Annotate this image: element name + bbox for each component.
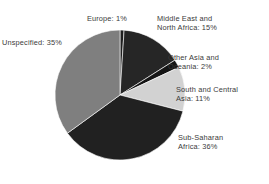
pie-label-other-asia-and-oceania: Other Asia and Oceania: 2% — [168, 53, 268, 71]
pie-label-sub-saharan-africa: Sub-Saharan Africa: 36% — [178, 133, 268, 151]
pie-label-europe: Europe: 1% — [57, 14, 127, 23]
pie-label-south-and-central-asia: South and Central Asia: 11% — [176, 85, 268, 103]
pie-label-middle-east-and-north-africa: Middle East and North Africa: 15% — [157, 14, 265, 32]
pie-label-unspecified: Unspecified: 35% — [2, 38, 80, 47]
pie-slice-group — [55, 30, 185, 160]
pie-chart-figure: Europe: 1% Unspecified: 35% Middle East … — [0, 0, 269, 184]
